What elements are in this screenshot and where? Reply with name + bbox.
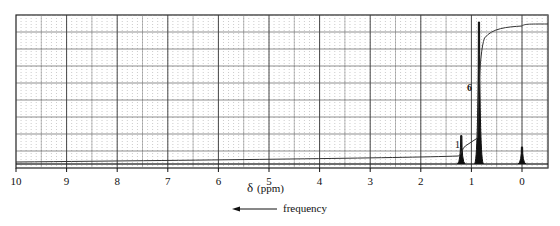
- arrow-left-icon: [232, 207, 240, 212]
- x-tick-label: 6: [216, 175, 222, 187]
- x-axis-label-delta: δ: [247, 180, 253, 195]
- frequency-label: frequency: [283, 202, 327, 214]
- x-tick-label: 9: [64, 175, 70, 187]
- x-tick-label: 10: [11, 175, 23, 187]
- nmr-spectrum-chart: 109876543210 δ (ppm) frequency 1 6: [0, 0, 560, 226]
- x-tick-label: 4: [317, 175, 323, 187]
- x-tick-label: 0: [519, 175, 525, 187]
- frequency-arrow: [232, 207, 277, 212]
- x-tick-label: 7: [165, 175, 171, 187]
- x-axis-label-unit: (ppm): [257, 182, 284, 195]
- x-tick-label: 8: [114, 175, 120, 187]
- x-tick-label: 1: [469, 175, 475, 187]
- x-tick-label: 2: [418, 175, 424, 187]
- integration-label-6: 6: [467, 82, 472, 93]
- integration-label-1: 1: [455, 139, 460, 150]
- x-tick-label: 3: [367, 175, 373, 187]
